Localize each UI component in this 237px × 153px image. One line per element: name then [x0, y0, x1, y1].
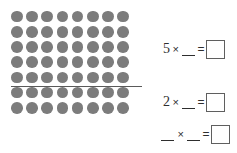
array-dot [11, 26, 23, 38]
array-dot [117, 56, 129, 68]
equals-sign-icon: = [197, 92, 204, 112]
array-dot [26, 26, 38, 38]
array-dot [11, 87, 23, 99]
array-dot [87, 41, 99, 53]
array-dot [41, 72, 53, 84]
array-dot [26, 56, 38, 68]
multiplication-sign-icon: × [173, 39, 179, 59]
array-dot [11, 72, 23, 84]
equation-3-answer-box[interactable] [211, 125, 230, 144]
array-dot [87, 11, 99, 23]
array-dot [102, 87, 114, 99]
array-dot [41, 11, 53, 23]
array-dot [72, 87, 84, 99]
array-dot [72, 72, 84, 84]
array-dot [57, 41, 69, 53]
array-dot [26, 11, 38, 23]
array-dot [102, 72, 114, 84]
array-dot [102, 41, 114, 53]
array-dot [41, 102, 53, 114]
dot-array-row [11, 70, 142, 85]
array-dot [57, 87, 69, 99]
array-dot [117, 102, 129, 114]
array-dot [117, 11, 129, 23]
multiplication-sign-icon: × [178, 124, 184, 144]
array-dot [117, 72, 129, 84]
math-array-worksheet: 5 × = 2 × = × = [0, 0, 237, 153]
multiplication-sign-icon: × [173, 92, 179, 112]
equation-2-answer-box[interactable] [206, 93, 225, 112]
equation-2-factor2-blank[interactable] [182, 95, 195, 109]
array-dot [87, 26, 99, 38]
equation-1-factor2-blank[interactable] [182, 42, 195, 56]
dot-array-row [11, 85, 142, 100]
equals-sign-icon: = [202, 124, 209, 144]
dot-array-row [11, 100, 142, 115]
array-dot [102, 102, 114, 114]
array-dot [102, 26, 114, 38]
array-dot [72, 41, 84, 53]
array-dot [72, 56, 84, 68]
equals-sign-icon: = [197, 39, 204, 59]
equation-row-2: 2 × = [163, 92, 225, 112]
equation-1-answer-box[interactable] [206, 40, 225, 59]
array-dot [11, 11, 23, 23]
array-dot [41, 26, 53, 38]
array-dot [11, 56, 23, 68]
array-dot [26, 87, 38, 99]
array-dot [11, 102, 23, 114]
array-dot [102, 11, 114, 23]
array-dot [41, 41, 53, 53]
equation-2-factor1: 2 [163, 92, 170, 112]
equation-row-3: × = [160, 124, 230, 144]
array-dot [87, 72, 99, 84]
array-dot [57, 11, 69, 23]
dot-array [11, 9, 142, 117]
array-dot [57, 56, 69, 68]
array-dot [26, 41, 38, 53]
array-dot [87, 102, 99, 114]
array-dot [72, 26, 84, 38]
dot-array-row [11, 55, 142, 70]
array-dot [41, 56, 53, 68]
array-dot [26, 102, 38, 114]
array-dot [26, 72, 38, 84]
array-dot [72, 11, 84, 23]
array-dot [11, 41, 23, 53]
array-dot [41, 87, 53, 99]
array-dot [117, 87, 129, 99]
array-dot [72, 102, 84, 114]
array-dot [102, 56, 114, 68]
dot-array-row [11, 39, 142, 54]
equation-1-factor1: 5 [163, 39, 170, 59]
array-dot [87, 56, 99, 68]
equation-row-1: 5 × = [163, 39, 225, 59]
array-dot [57, 26, 69, 38]
equation-3-factor2-blank[interactable] [187, 127, 200, 141]
dot-array-row [11, 24, 142, 39]
array-dot [57, 102, 69, 114]
dot-array-row [11, 9, 142, 24]
array-dot [117, 26, 129, 38]
array-dot [57, 72, 69, 84]
array-dot [87, 87, 99, 99]
equation-3-factor1-blank[interactable] [161, 127, 174, 141]
array-dot [117, 41, 129, 53]
